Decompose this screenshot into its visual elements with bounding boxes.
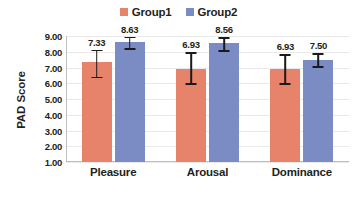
error-bar — [129, 37, 131, 48]
error-bar-cap-top — [91, 50, 102, 52]
bar-value-label: 7.50 — [310, 40, 327, 51]
bar-group: 6.938.56 — [160, 36, 254, 162]
y-axis-tick-label: 2.00 — [28, 141, 62, 152]
error-bar-cap-top — [218, 37, 229, 39]
gridline — [66, 162, 349, 163]
error-bar — [285, 54, 287, 83]
x-axis-category-label: Arousal — [160, 166, 254, 178]
error-bar-cap-bottom — [124, 48, 135, 50]
bar-slot: 8.63 — [115, 36, 145, 162]
error-bar — [190, 52, 192, 83]
x-axis-category-labels: PleasureArousalDominance — [66, 166, 349, 178]
y-axis-tick-label: 8.00 — [28, 46, 62, 57]
bar-group-bars: 7.338.63 — [66, 36, 160, 162]
error-bar-cap-bottom — [91, 77, 102, 79]
error-bar — [223, 37, 225, 50]
error-bar — [318, 53, 320, 66]
x-axis-category-label: Dominance — [255, 166, 349, 178]
bar-slot: 6.93 — [176, 36, 206, 162]
y-axis-tick-label: 3.00 — [28, 125, 62, 136]
y-axis-tick-label: 1.00 — [28, 157, 62, 168]
bar-value-label: 8.63 — [121, 24, 138, 35]
bar-group-bars: 6.937.50 — [255, 36, 349, 162]
error-bar-cap-bottom — [313, 66, 324, 68]
bar-value-label: 7.33 — [88, 37, 105, 48]
error-bar-cap-top — [313, 53, 324, 55]
bar[interactable] — [115, 42, 145, 162]
y-axis-tick-label: 7.00 — [28, 62, 62, 73]
error-bar-cap-top — [124, 37, 135, 39]
y-axis-tick-labels: 9.008.007.006.005.004.003.002.001.00 — [26, 36, 62, 162]
error-bar-cap-bottom — [280, 83, 291, 85]
legend-label-group2: Group2 — [198, 6, 238, 18]
legend-swatch-group2 — [186, 8, 194, 16]
y-axis-tick-label: 9.00 — [28, 31, 62, 42]
x-axis-category-label: Pleasure — [66, 166, 160, 178]
y-axis-tick-label: 4.00 — [28, 109, 62, 120]
legend-item-group2: Group2 — [186, 6, 238, 18]
bar-slot: 7.50 — [303, 36, 333, 162]
bar-group-bars: 6.938.56 — [160, 36, 254, 162]
bar-chart: Group1 Group2 PAD Score 9.008.007.006.00… — [0, 0, 357, 197]
legend-item-group1: Group1 — [120, 6, 172, 18]
error-bar — [96, 50, 98, 77]
bar[interactable] — [209, 43, 239, 162]
bar-slot: 6.93 — [270, 36, 300, 162]
error-bar-cap-top — [280, 54, 291, 56]
bar[interactable] — [303, 60, 333, 162]
y-axis-tick-label: 5.00 — [28, 94, 62, 105]
error-bar-cap-bottom — [185, 83, 196, 85]
bar-value-label: 6.93 — [277, 41, 294, 52]
bar-value-label: 8.56 — [215, 24, 232, 35]
error-bar-cap-top — [185, 52, 196, 54]
error-bar-cap-bottom — [218, 50, 229, 52]
bar-group: 7.338.63 — [66, 36, 160, 162]
bar-groups: 7.338.636.938.566.937.50 — [66, 36, 349, 162]
bar-value-label: 6.93 — [182, 39, 199, 50]
bar-slot: 7.33 — [82, 36, 112, 162]
chart-legend: Group1 Group2 — [0, 6, 357, 18]
plot-area: 7.338.636.938.566.937.50 — [66, 36, 349, 162]
bar-group: 6.937.50 — [255, 36, 349, 162]
legend-swatch-group1 — [120, 8, 128, 16]
legend-label-group1: Group1 — [132, 6, 172, 18]
y-axis-tick-label: 6.00 — [28, 78, 62, 89]
bar-slot: 8.56 — [209, 36, 239, 162]
